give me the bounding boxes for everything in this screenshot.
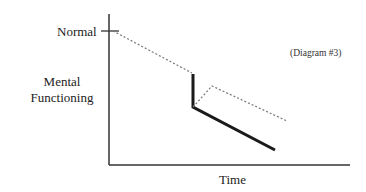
diagram-tag: (Diagram #3) <box>290 46 341 61</box>
x-axis-label: Time <box>219 172 246 187</box>
y-axis-label-line2: Functioning <box>22 90 102 105</box>
diagram-canvas: Normal Mental Functioning Time (Diagram … <box>0 0 366 192</box>
normal-label: Normal <box>57 24 97 39</box>
y-axis-label-line1: Mental <box>22 74 102 89</box>
sudden-drop-line <box>193 74 275 150</box>
baseline-decline-line <box>113 31 192 73</box>
